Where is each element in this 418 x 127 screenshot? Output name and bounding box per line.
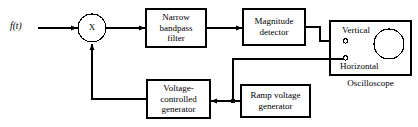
junction-dot: [231, 99, 236, 104]
oscilloscope-horizontal-label: Horizontal: [340, 61, 379, 71]
block-label-ramp-voltage-generator: Ramp voltage generator: [241, 90, 310, 111]
block-diagram: f(t) X Narrow bandpass filter Magnitude …: [0, 0, 418, 127]
mixer-symbol: X: [84, 22, 100, 32]
block-label-magnitude-detector: Magnitude detector: [243, 16, 305, 37]
block-label-narrow-bandpass-filter: Narrow bandpass filter: [146, 12, 206, 44]
horizontal-terminal-post: [343, 56, 347, 60]
oscilloscope-crt-circle: [374, 29, 404, 59]
wire-vcg-to-mixer: [92, 44, 147, 99]
oscilloscope-caption: Oscilloscope: [330, 78, 411, 88]
input-signal-label: f(t): [10, 21, 22, 31]
block-label-voltage-controlled-generator: Voltage- controlled generator: [147, 83, 210, 115]
oscilloscope-vertical-label: Vertical: [342, 25, 370, 35]
vertical-terminal-post: [343, 39, 347, 43]
